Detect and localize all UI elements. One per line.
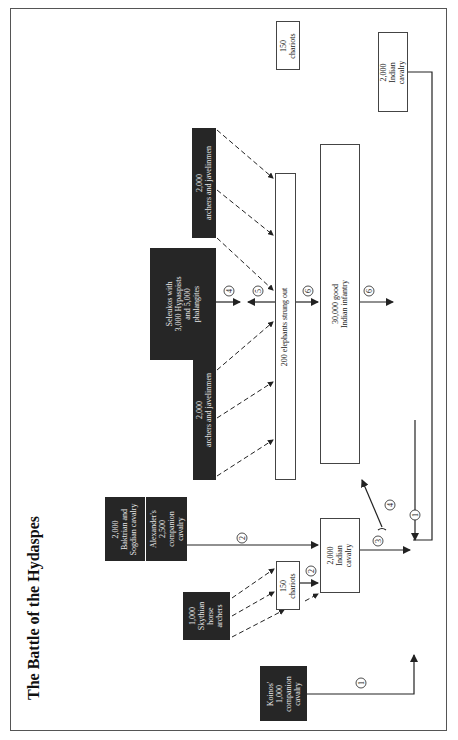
svg-text:2: 2 <box>307 569 316 573</box>
unit-label: 2,000 <box>112 503 121 555</box>
elephants-line-box: 200 elephants strung out <box>275 173 296 480</box>
unit-label: horse <box>206 602 215 630</box>
unit-label: Sogdian cavalry <box>130 503 139 555</box>
unit-label: Alexander's <box>149 510 158 548</box>
unit-label: archers and javelinmen <box>205 373 214 447</box>
chariots-left-box: 150 chariots <box>276 561 300 610</box>
unit-label: 1,000 <box>188 602 197 630</box>
unit-label: archers <box>215 602 224 630</box>
svg-text:6: 6 <box>365 289 374 293</box>
indian-cavalry-right-box: 2,000 Indian cavalry <box>378 32 408 112</box>
koinos-cavalry-box: Koinos' 1,000 companion cavalry <box>260 666 307 721</box>
unit-label: 2,000 <box>379 60 388 84</box>
unit-label: 2,000 <box>326 544 335 568</box>
skythian-archers-box: 1,000 Skythian horse archers <box>183 592 230 640</box>
unit-label: companion <box>283 676 292 712</box>
seleukos-infantry-box: Seleukos with 3,000 Hypaspists and 5,000… <box>150 248 216 360</box>
unit-label: 200 elephants strung out <box>281 287 291 365</box>
unit-label: chariots <box>288 573 297 598</box>
unit-label: 2,000 <box>195 146 204 220</box>
archers-right-box: 2,000 archers and javelinmen <box>192 128 216 238</box>
svg-text:3: 3 <box>374 539 383 543</box>
alexander-cavalry-box: Alexander's 2,500 companion cavalry <box>146 497 187 561</box>
unit-label: 150 <box>279 573 288 598</box>
svg-text:5: 5 <box>254 289 263 293</box>
baktrian-cavalry-box: 2,000 Baktrian and Sogdian cavalry <box>105 497 145 561</box>
unit-label: Indian <box>335 544 344 568</box>
svg-text:4: 4 <box>386 503 395 507</box>
indian-infantry-box: 30,000 good Indian infantry <box>320 144 360 464</box>
unit-label: cavalry <box>344 544 353 568</box>
unit-label: phalangites <box>192 276 201 331</box>
unit-label: chariots <box>288 33 297 58</box>
unit-label: Indian infantry <box>340 280 349 328</box>
unit-label: archers and javelinmen <box>204 146 213 220</box>
svg-text:2: 2 <box>238 536 247 540</box>
unit-label: Baktrian and <box>121 503 130 555</box>
unit-label: 2,500 <box>158 510 167 548</box>
unit-label: Skythian <box>197 602 206 630</box>
unit-label: cavalry <box>176 510 185 548</box>
svg-text:4: 4 <box>225 289 234 293</box>
archers-left-box: 2,000 archers and javelinmen <box>193 340 216 480</box>
indian-cavalry-left-box: 2,000 Indian cavalry <box>320 518 360 593</box>
unit-label: 150 <box>279 33 288 58</box>
svg-text:1: 1 <box>357 681 366 685</box>
unit-label: Indian <box>388 60 397 84</box>
chariots-right-box: 150 chariots <box>276 21 300 70</box>
unit-label: Koinos' <box>265 676 274 712</box>
unit-label: 1,000 <box>274 676 283 712</box>
svg-text:6: 6 <box>304 289 313 293</box>
unit-label: cavalry <box>397 60 406 84</box>
unit-label: cavalry <box>292 676 301 712</box>
unit-label: 30,000 good <box>331 280 340 328</box>
svg-text:1: 1 <box>411 513 420 517</box>
unit-label: companion <box>167 510 176 548</box>
